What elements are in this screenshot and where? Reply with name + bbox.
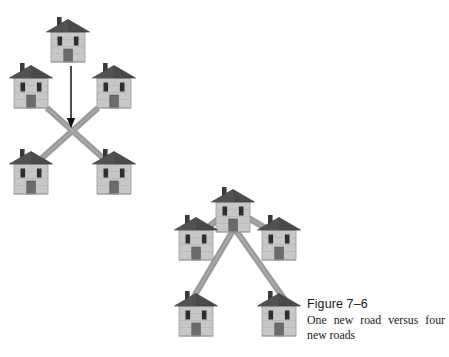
figure-container: Figure 7–6 One new road versus four new …	[0, 0, 449, 357]
figure-caption-text: One new road versus four new roads	[307, 313, 445, 342]
figure-number-label: Figure 7–6	[307, 297, 447, 312]
figure-caption-block: Figure 7–6 One new road versus four new …	[307, 297, 447, 342]
